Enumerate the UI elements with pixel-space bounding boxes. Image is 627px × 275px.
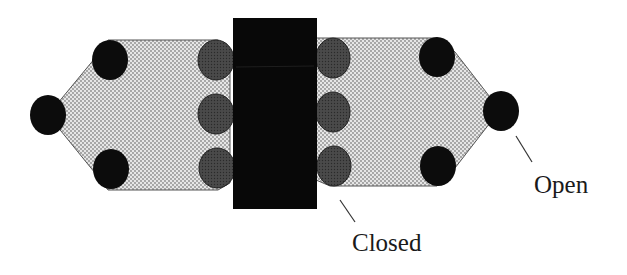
central-block xyxy=(233,18,317,209)
closed-label: Closed xyxy=(352,230,421,255)
right-open-circle-top xyxy=(419,37,455,77)
left-closed-circle-bottom xyxy=(199,148,235,188)
left-open-circle-apex xyxy=(30,95,66,135)
left-closed-circle-top xyxy=(198,40,234,80)
right-open-circle-bottom xyxy=(420,146,456,186)
right-open-circle-apex xyxy=(483,91,519,131)
left-open-circle-bottom xyxy=(93,149,129,189)
right-closed-circle-middle xyxy=(316,92,350,132)
open-leader-line xyxy=(516,136,532,162)
left-open-circle-top xyxy=(92,40,128,80)
diagram-canvas xyxy=(0,0,627,275)
right-assembly xyxy=(316,37,519,186)
right-closed-circle-bottom xyxy=(317,146,351,186)
right-closed-circle-top xyxy=(316,38,350,78)
left-assembly xyxy=(30,40,235,190)
left-closed-circle-middle xyxy=(198,94,234,134)
closed-leader-line xyxy=(340,200,355,222)
open-label: Open xyxy=(534,172,588,197)
